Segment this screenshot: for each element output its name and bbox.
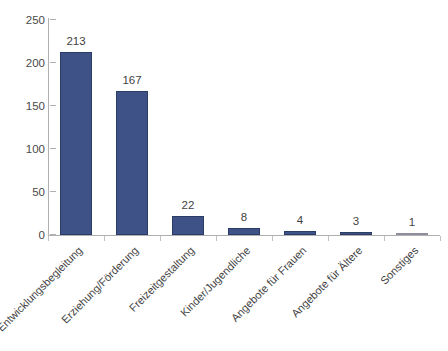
bar-freizeitgestaltung[interactable] [172, 216, 204, 235]
bar-value-label: 1 [384, 216, 440, 229]
y-axis-tick-150: 150 [0, 100, 56, 112]
bar-chart: 0 50 100 150 200 250 213 167 22 [0, 0, 448, 351]
bar-kinder-jugendliche[interactable] [228, 228, 260, 235]
bar-value-label: 4 [272, 214, 328, 227]
x-axis-tick-mark [160, 236, 161, 241]
x-axis-tick-mark [104, 236, 105, 241]
bar-value-label: 167 [104, 74, 160, 87]
x-axis-tick-mark [384, 236, 385, 241]
x-axis-line [48, 235, 440, 236]
bar-angebote-fuer-aeltere[interactable] [340, 232, 372, 235]
bar-value-label: 22 [160, 199, 216, 212]
bar-angebote-fuer-frauen[interactable] [284, 231, 316, 235]
y-axis-tick-mark [50, 62, 56, 63]
x-axis-tick-mark [440, 236, 441, 241]
x-axis-tick-mark [48, 236, 49, 241]
bar-value-label: 8 [216, 211, 272, 224]
y-axis-tick-mark [50, 19, 56, 20]
y-axis-line [48, 18, 49, 237]
y-axis-tick-50: 50 [0, 186, 56, 198]
y-axis-tick-mark [50, 105, 56, 106]
y-axis-tick-mark [50, 191, 56, 192]
y-axis-tick-mark [50, 148, 56, 149]
y-axis-tick-100: 100 [0, 143, 56, 155]
bar-sonstiges[interactable] [396, 233, 428, 235]
bar-erziehung-foerderung[interactable] [116, 91, 148, 235]
y-axis-tick-200: 200 [0, 57, 56, 69]
bar-value-label: 213 [48, 35, 104, 48]
x-axis-tick-mark [328, 236, 329, 241]
y-axis-tick-mark [50, 234, 56, 235]
y-axis-tick-label: 50 [32, 186, 45, 198]
y-axis-tick-label: 150 [26, 100, 45, 112]
y-axis-tick-label: 0 [39, 229, 45, 241]
x-axis-tick-mark [216, 236, 217, 241]
y-axis-tick-label: 200 [26, 57, 45, 69]
y-axis-tick-label: 250 [26, 14, 45, 26]
y-axis-tick-250: 250 [0, 14, 56, 26]
y-axis-tick-label: 100 [26, 143, 45, 155]
bar-entwicklungsbegleitung[interactable] [60, 52, 92, 235]
bar-value-label: 3 [328, 215, 384, 228]
x-axis-tick-mark [272, 236, 273, 241]
